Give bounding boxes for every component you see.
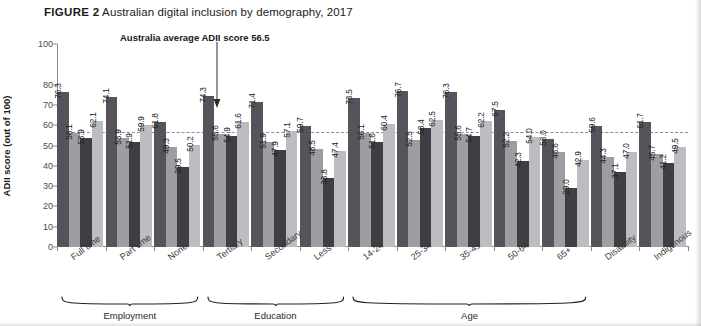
bar-value-label: 61.8: [151, 113, 160, 129]
bar: 47.9: [274, 150, 286, 247]
y-axis-tick-label: 60: [43, 120, 53, 130]
x-axis-tick-mark: [639, 246, 640, 251]
bar: 41.2: [663, 163, 675, 247]
bar: 74.3: [203, 96, 215, 247]
bar: 62.2: [480, 121, 492, 247]
x-axis-tick-mark: [154, 246, 155, 251]
bar: 54.0: [529, 137, 541, 247]
bar: 71.4: [251, 102, 263, 247]
bar: 59.6: [591, 126, 603, 247]
bar: 62.1: [92, 121, 104, 247]
bar-value-label: 67.5: [491, 101, 500, 117]
bar-value-label: 61.6: [234, 113, 243, 129]
x-axis-tick-mark: [106, 246, 107, 251]
bar-value-label: 51.9: [259, 133, 268, 149]
x-axis-tick-mark: [542, 246, 543, 251]
bar: 58.4: [420, 128, 432, 247]
bar-value-label: 29.0: [562, 179, 571, 195]
bar-value-label: 73.5: [345, 89, 354, 105]
bar-group: 61.745.741.249.5: [639, 44, 688, 247]
bar-value-label: 56.1: [65, 124, 74, 140]
bar-group: 59.748.533.847.4: [300, 44, 349, 247]
bar: 37.1: [614, 172, 626, 247]
y-axis-tick-label: 10: [43, 222, 53, 232]
bar: 51.9: [129, 142, 141, 247]
bar: 67.5: [494, 110, 506, 247]
x-axis-tick-mark: [397, 246, 398, 251]
bar-value-label: 62.1: [89, 112, 98, 128]
section-brace: [207, 296, 345, 307]
bar: 55.6: [457, 134, 469, 247]
bar-value-label: 62.5: [428, 111, 437, 127]
section-label: Age: [461, 310, 478, 321]
bar: 61.6: [237, 122, 249, 247]
bar-group: 76.752.558.462.5: [397, 44, 446, 247]
y-axis-tick-label: 100: [38, 39, 53, 49]
x-axis-tick-mark: [591, 246, 592, 251]
bar-group: 61.849.339.550.2: [154, 44, 203, 247]
bar: 73.5: [348, 98, 360, 247]
x-axis-tick-mark: [251, 246, 252, 251]
section-label: Employment: [103, 310, 156, 321]
bar-value-label: 54.9: [223, 127, 232, 143]
bar-group: 53.046.629.042.9: [542, 44, 591, 247]
bar-value-label: 45.7: [648, 145, 657, 161]
bar-value-label: 76.7: [394, 83, 403, 99]
bar: 76.7: [397, 91, 409, 247]
x-axis-tick-mark: [57, 246, 58, 251]
section-brace: [352, 296, 587, 307]
bar-value-label: 76.3: [54, 83, 63, 99]
bar: 53.9: [80, 138, 92, 247]
bar-group: 76.356.153.962.1: [57, 44, 106, 247]
figure-title-text: Australian digital inclusion by demograp…: [102, 6, 353, 18]
bar-value-label: 71.4: [248, 93, 257, 109]
y-axis-tick-label: 40: [43, 161, 53, 171]
y-axis-tick-label: 80: [43, 80, 53, 90]
bar-value-label: 42.9: [574, 151, 583, 167]
bar-value-label: 55.6: [454, 125, 463, 141]
bar: 61.7: [639, 122, 651, 247]
bar: 54.9: [226, 136, 238, 247]
bar: 51.9: [263, 142, 275, 247]
bar-group: 76.355.654.762.2: [445, 44, 494, 247]
bar: 53.9: [117, 138, 129, 247]
bar-value-label: 49.5: [671, 138, 680, 154]
bar: 76.3: [445, 92, 457, 247]
section-label: Education: [254, 310, 296, 321]
y-axis-tick-label: 50: [43, 141, 53, 151]
bar: 52.5: [408, 140, 420, 247]
bar-value-label: 74.1: [102, 88, 111, 104]
y-axis-tick-label: 20: [43, 201, 53, 211]
bar-value-label: 53.9: [114, 129, 123, 145]
bar-group: 59.644.337.147.0: [591, 44, 640, 247]
x-axis-tick-mark: [300, 246, 301, 251]
figure-number: FIGURE 2: [44, 6, 99, 18]
bar: 50.2: [189, 145, 201, 247]
bar: 62.5: [431, 120, 443, 247]
x-axis-tick-mark: [688, 246, 689, 251]
bar-value-label: 33.8: [320, 170, 329, 186]
bar-value-label: 56.1: [357, 124, 366, 140]
bar-value-label: 53.0: [539, 131, 548, 147]
bar: 46.6: [554, 152, 566, 247]
bar-value-label: 48.5: [308, 140, 317, 156]
section-brace: [61, 296, 199, 307]
bar-value-label: 37.1: [611, 163, 620, 179]
bar-value-label: 58.4: [417, 120, 426, 136]
x-axis-category-label: 65+: [555, 245, 573, 262]
bar-group: 71.451.947.957.1: [251, 44, 300, 247]
bar-value-label: 54.0: [525, 129, 534, 145]
bar: 59.9: [140, 125, 152, 247]
figure-title: FIGURE 2 Australian digital inclusion by…: [44, 6, 353, 18]
bar: 48.5: [311, 149, 323, 247]
bar-value-label: 51.6: [368, 133, 377, 149]
bar-value-label: 44.3: [599, 148, 608, 164]
bar: 47.4: [334, 151, 346, 247]
bar-value-label: 46.6: [551, 144, 560, 160]
bar: 56.1: [360, 133, 372, 247]
bar: 55.6: [214, 134, 226, 247]
bar: 33.8: [323, 178, 335, 247]
bar: 54.7: [468, 136, 480, 247]
x-axis-tick-mark: [348, 246, 349, 251]
x-axis-tick-mark: [494, 246, 495, 251]
